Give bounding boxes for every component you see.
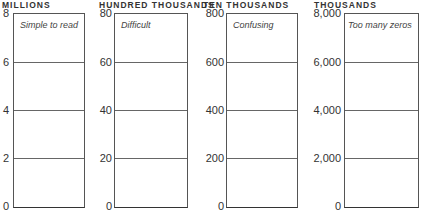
y-tick-0: 0 bbox=[0, 201, 9, 212]
y-tick-6000: 6,000 bbox=[300, 57, 341, 68]
gridline-400 bbox=[227, 110, 297, 111]
y-tick-0: 0 bbox=[98, 201, 112, 212]
y-tick-2: 2 bbox=[0, 153, 9, 164]
chart-panel-millions: MILLIONS 8 6 4 2 0 Simple to read bbox=[0, 0, 100, 214]
y-tick-400: 400 bbox=[200, 105, 224, 116]
y-tick-60: 60 bbox=[98, 57, 112, 68]
plot-area: Confusing bbox=[226, 13, 298, 208]
gridline-20 bbox=[115, 158, 187, 159]
annotation: Too many zeros bbox=[348, 20, 412, 30]
y-tick-40: 40 bbox=[98, 105, 112, 116]
unit-label: MILLIONS bbox=[2, 0, 51, 10]
y-tick-4: 4 bbox=[0, 105, 9, 116]
plot-area: Difficult bbox=[114, 13, 188, 208]
y-tick-6: 6 bbox=[0, 57, 9, 68]
gridline-2 bbox=[14, 158, 84, 159]
gridline-200 bbox=[227, 158, 297, 159]
gridline-2000 bbox=[345, 158, 418, 159]
annotation: Confusing bbox=[233, 20, 274, 30]
plot-area: Simple to read bbox=[13, 13, 85, 208]
plot-area: Too many zeros bbox=[344, 13, 419, 208]
annotation: Difficult bbox=[121, 20, 151, 30]
gridline-6000 bbox=[345, 62, 418, 63]
gridline-4 bbox=[14, 110, 84, 111]
y-tick-8: 8 bbox=[0, 8, 9, 19]
y-tick-0: 0 bbox=[200, 201, 224, 212]
chart-panel-hundred-thousands: HUNDRED THOUSANDS 80 60 40 20 0 Difficul… bbox=[98, 0, 198, 214]
unit-label: HUNDRED THOUSANDS bbox=[99, 0, 215, 10]
y-tick-4000: 4,000 bbox=[300, 105, 341, 116]
chart-panel-thousands: THOUSANDS 8,000 6,000 4,000 2,000 0 Too … bbox=[300, 0, 421, 214]
y-tick-200: 200 bbox=[200, 153, 224, 164]
gridline-4000 bbox=[345, 110, 418, 111]
gridline-60 bbox=[115, 62, 187, 63]
y-tick-0: 0 bbox=[300, 201, 341, 212]
y-tick-600: 600 bbox=[200, 57, 224, 68]
y-tick-8000: 8,000 bbox=[300, 8, 341, 19]
y-tick-2000: 2,000 bbox=[300, 153, 341, 164]
y-tick-80: 80 bbox=[98, 8, 112, 19]
y-tick-800: 800 bbox=[200, 8, 224, 19]
gridline-40 bbox=[115, 110, 187, 111]
annotation: Simple to read bbox=[20, 20, 78, 30]
gridline-6 bbox=[14, 62, 84, 63]
chart-panel-ten-thousands: TEN THOUSANDS 800 600 400 200 0 Confusin… bbox=[200, 0, 300, 214]
gridline-600 bbox=[227, 62, 297, 63]
y-tick-20: 20 bbox=[98, 153, 112, 164]
